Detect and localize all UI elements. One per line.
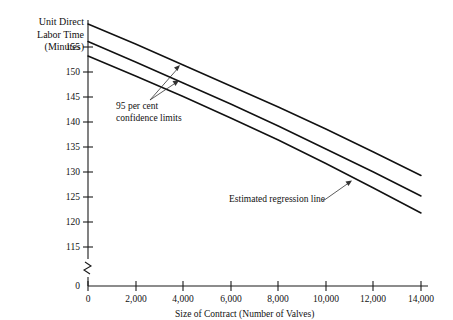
series-line-upper-confidence-limit <box>88 24 421 176</box>
y-tick-label-155: 155 <box>66 42 81 52</box>
x-tick-label-10000: 10,000 <box>313 294 339 304</box>
annotation-confidence-upper-arrow-icon <box>174 65 180 71</box>
chart-figure: Unit Direct Labor Time (Minutes) 95 per … <box>0 0 453 320</box>
x-axis-title: Size of Contract (Number of Valves) <box>175 309 314 320</box>
series-line-lower-confidence-limit <box>88 56 421 213</box>
y-tick-label-115: 115 <box>66 242 80 252</box>
y-axis-break-icon <box>84 262 91 274</box>
y-tick-label-135: 135 <box>66 142 81 152</box>
x-tick-label-4000: 4,000 <box>172 294 194 304</box>
x-tick-label-12000: 12,000 <box>360 294 386 304</box>
y-tick-label-150: 150 <box>66 67 81 77</box>
y-tick-label-0: 0 <box>75 281 80 291</box>
series-line-estimated-regression <box>88 42 421 197</box>
y-tick-label-140: 140 <box>66 117 81 127</box>
y-tick-label-130: 130 <box>66 167 81 177</box>
y-tick-label-125: 125 <box>66 192 81 202</box>
y-tick-label-120: 120 <box>66 217 81 227</box>
x-tick-label-2000: 2,000 <box>125 294 147 304</box>
y-tick-label-145: 145 <box>66 92 81 102</box>
annotation-regression-arrow-icon <box>346 181 353 187</box>
x-tick-label-6000: 6,000 <box>220 294 242 304</box>
plot-area: 0 115 120 125 130 135 140 145 150 155 0 … <box>0 0 453 320</box>
annotation-confidence-lower-arrow-icon <box>173 81 180 87</box>
x-tick-label-14000: 14,000 <box>408 294 434 304</box>
x-tick-label-8000: 8,000 <box>267 294 289 304</box>
annotation-regression-leader <box>323 182 350 201</box>
x-tick-label-0: 0 <box>86 294 91 304</box>
